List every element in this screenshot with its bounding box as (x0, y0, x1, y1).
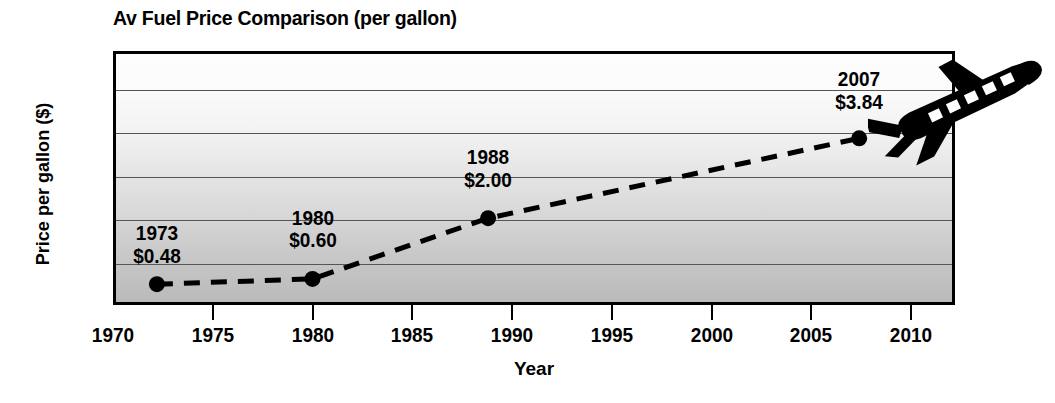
gridline (116, 133, 952, 134)
x-axis-tick-label: 1995 (560, 324, 665, 347)
x-axis-tick-label: 1970 (61, 324, 166, 347)
airplane-icon (868, 52, 1055, 172)
x-axis-tick-mark (810, 305, 812, 320)
x-axis-tick-label: 1985 (360, 324, 465, 347)
x-axis-tick-mark (411, 305, 413, 320)
x-axis-tick-label: 1990 (460, 324, 565, 347)
x-axis-tick-label: 2000 (659, 324, 764, 347)
x-axis-tick-label: 1975 (161, 324, 266, 347)
x-axis-tick-mark (212, 305, 214, 320)
x-axis-tick-label: 1980 (260, 324, 365, 347)
annotation-year: 1980 (256, 207, 370, 229)
x-axis-title: Year (113, 358, 955, 380)
point-annotation: 1988$2.00 (431, 146, 545, 191)
x-axis-tick-mark (611, 305, 613, 320)
point-annotation: 1980$0.60 (256, 207, 370, 252)
chart-title: Av Fuel Price Comparison (per gallon) (113, 6, 457, 30)
x-axis-tick-label: 2010 (859, 324, 964, 347)
annotation-value: $2.00 (431, 169, 545, 191)
gridline (116, 220, 952, 221)
x-axis-tick-mark (312, 305, 314, 320)
y-axis-title: Price per gallon ($) (32, 65, 54, 303)
annotation-value: $0.60 (256, 229, 370, 251)
point-annotation: 1973$0.48 (100, 222, 214, 267)
annotation-value: $0.48 (100, 245, 214, 267)
fuel-price-chart: Av Fuel Price Comparison (per gallon) Pr… (0, 0, 1055, 403)
x-axis-tick-mark (511, 305, 513, 320)
annotation-year: 1973 (100, 222, 214, 244)
gridline (116, 264, 952, 265)
x-axis-tick-mark (711, 305, 713, 320)
x-axis-tick-mark (910, 305, 912, 320)
annotation-year: 1988 (431, 146, 545, 168)
x-axis-tick-label: 2005 (759, 324, 864, 347)
